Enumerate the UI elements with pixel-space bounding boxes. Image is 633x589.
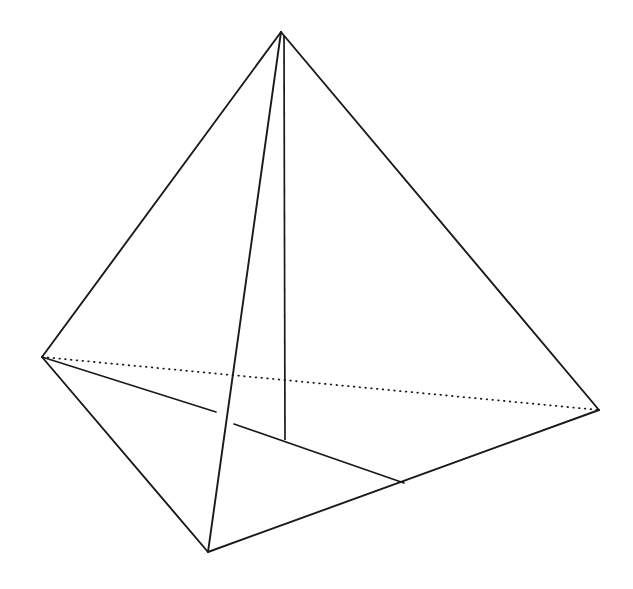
interior-altitude-line — [284, 36, 285, 440]
tetrahedron-figure — [0, 0, 633, 589]
figure-background — [0, 0, 633, 589]
